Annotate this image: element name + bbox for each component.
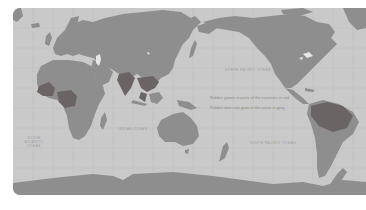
label-south-pacific: South Pacific Ocean [248,141,298,145]
label-south-atlantic: South Atlantic Ocean [19,136,49,148]
legend-rubber-grown: Rubber grown in parts of the countries i… [210,95,320,100]
world-map: South Atlantic Ocean Indian Ocean North … [13,8,366,195]
map-legend: Rubber grown in parts of the countries i… [210,95,320,115]
legend-no-rubber: Rubber does not grow in the areas in gre… [210,105,320,110]
label-indian-ocean: Indian Ocean [113,127,153,131]
label-north-pacific: North Pacific Ocean [223,68,273,72]
